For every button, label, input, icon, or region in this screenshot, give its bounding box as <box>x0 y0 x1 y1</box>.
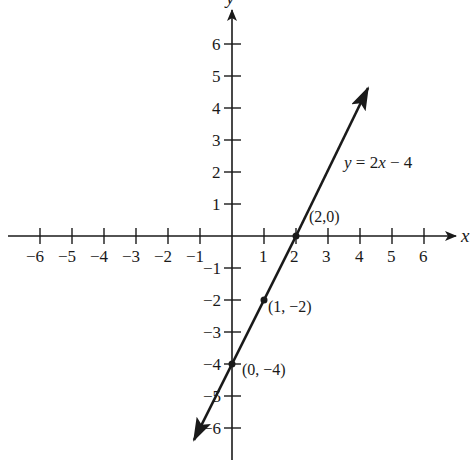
y-tick-label: −6 <box>203 419 221 438</box>
point-0-neg4 <box>229 361 236 368</box>
y-tick-label: −3 <box>203 323 221 342</box>
x-tick-label: 5 <box>387 247 396 266</box>
y-tick-label: 4 <box>212 99 221 118</box>
y-tick-label: 1 <box>212 195 221 214</box>
x-tick-label: −2 <box>154 247 172 266</box>
x-tick-label: 3 <box>322 247 331 266</box>
y-tick-label: −4 <box>203 355 222 374</box>
x-tick-label: −6 <box>26 247 44 266</box>
y-tick-label: 5 <box>212 67 221 86</box>
x-tick-label: −5 <box>58 247 76 266</box>
x-tick-label: 6 <box>419 247 428 266</box>
x-tick-label: −3 <box>122 247 140 266</box>
equation-text: = 2 <box>352 153 379 172</box>
point-label-0-neg4: (0, −4) <box>242 361 286 379</box>
x-tick-label: −1 <box>186 247 204 266</box>
x-axis-label: x <box>460 225 470 246</box>
coordinate-plane: x y −6 −5 −4 −3 −2 −1 1 2 3 4 5 6 <box>0 0 472 467</box>
equation-label: y = 2x − 4 <box>342 153 413 172</box>
y-tick-label: 2 <box>212 163 221 182</box>
point-1-neg2 <box>261 297 268 304</box>
y-axis-label: y <box>224 0 235 8</box>
x-tick-label: −4 <box>90 247 109 266</box>
point-label-1-neg2: (1, −2) <box>268 298 312 316</box>
y-tick-labels-negative: −1 −2 −3 −4 −5 −6 <box>203 259 222 438</box>
point-2-0 <box>293 233 300 240</box>
x-tick-labels: −6 −5 −4 −3 −2 −1 1 2 3 4 5 6 <box>26 247 428 266</box>
y-tick-label: 3 <box>212 131 221 150</box>
x-tick-label: 1 <box>259 247 268 266</box>
x-tick-label: 4 <box>355 247 364 266</box>
point-label-2-0: (2,0) <box>309 208 340 226</box>
y-tick-label: 6 <box>212 35 221 54</box>
y-tick-label: −2 <box>203 291 221 310</box>
y-tick-labels-positive: 1 2 3 4 5 6 <box>212 35 221 214</box>
x-tick-label: 2 <box>290 247 299 266</box>
y-tick-label: −1 <box>203 259 221 278</box>
